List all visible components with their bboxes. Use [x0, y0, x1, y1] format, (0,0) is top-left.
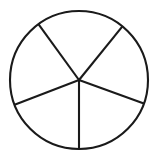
pie-chart-svg: Circle divided into five sectors with tw… [0, 0, 160, 158]
fraction-circle-figure: Circle divided into five sectors with tw… [0, 0, 160, 158]
